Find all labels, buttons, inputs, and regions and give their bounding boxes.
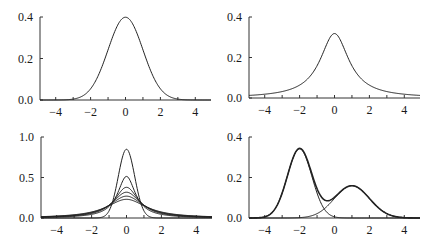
x-tick-label: 0 (123, 105, 129, 119)
x-tick-label: 4 (401, 103, 407, 117)
chart-figure: 0.00.20.4−4−20240.00.20.4−4−20240.00.51.… (0, 0, 435, 248)
x-tick-label: 2 (366, 103, 372, 117)
panel-3: 0.00.51.0−4−2024 (19, 130, 212, 237)
y-tick-label: 0.2 (227, 171, 242, 185)
y-tick-label: 0.4 (18, 10, 33, 24)
series-peak-0.85 (41, 149, 212, 218)
y-tick-label: 0.2 (227, 51, 242, 65)
x-tick-label: −4 (49, 105, 62, 119)
x-tick-label: −4 (258, 103, 271, 117)
x-tick-label: 4 (401, 223, 407, 237)
panel-1: 0.00.20.4−4−2024 (18, 10, 211, 119)
x-tick-label: 0 (332, 223, 338, 237)
panel-4: 0.00.20.4−4−2024 (227, 130, 420, 237)
series-normal (40, 17, 211, 100)
x-tick-label: 4 (192, 105, 198, 119)
y-tick-label: 0.0 (227, 211, 242, 225)
y-tick-label: 0.4 (227, 10, 242, 24)
y-tick-label: 0.4 (227, 130, 242, 144)
y-tick-label: 0.0 (18, 93, 33, 107)
series-component-1 (249, 149, 420, 218)
y-tick-label: 0.0 (19, 211, 34, 225)
x-tick-label: −4 (50, 223, 63, 237)
x-tick-label: −2 (84, 105, 97, 119)
x-tick-label: 0 (124, 223, 130, 237)
x-tick-label: 2 (157, 105, 163, 119)
x-tick-label: −4 (258, 223, 271, 237)
series-cauchy (249, 34, 420, 96)
x-tick-label: 2 (158, 223, 164, 237)
series-peak-0.23 (41, 199, 212, 216)
series-peak-0.51 (41, 176, 212, 217)
x-tick-label: 2 (366, 223, 372, 237)
series-component-2 (249, 186, 420, 218)
panel-2: 0.00.20.4−4−2024 (227, 10, 420, 117)
x-tick-label: −2 (293, 223, 306, 237)
y-tick-label: 0.5 (19, 171, 34, 185)
x-tick-label: −2 (293, 103, 306, 117)
y-tick-label: 0.0 (227, 91, 242, 105)
series-mixture (249, 148, 420, 218)
y-tick-label: 1.0 (19, 130, 34, 144)
x-tick-label: 4 (193, 223, 199, 237)
x-tick-label: −2 (85, 223, 98, 237)
x-tick-label: 0 (332, 103, 338, 117)
y-tick-label: 0.2 (18, 52, 33, 66)
